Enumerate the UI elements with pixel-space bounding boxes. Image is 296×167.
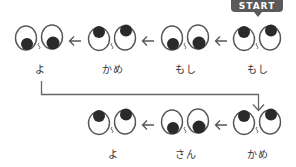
eyes-looking-up-icon xyxy=(87,108,139,136)
arrow-left-icon xyxy=(141,116,155,128)
return-arrow-down-icon xyxy=(0,0,296,167)
eyes-looking-up-icon xyxy=(232,108,284,136)
arrow-left-icon xyxy=(214,116,228,128)
pair-label: かめ xyxy=(232,149,284,161)
pair-label: よ xyxy=(87,149,139,161)
eyes-looking-down-icon xyxy=(160,108,212,136)
pair-label: さん xyxy=(160,149,212,161)
